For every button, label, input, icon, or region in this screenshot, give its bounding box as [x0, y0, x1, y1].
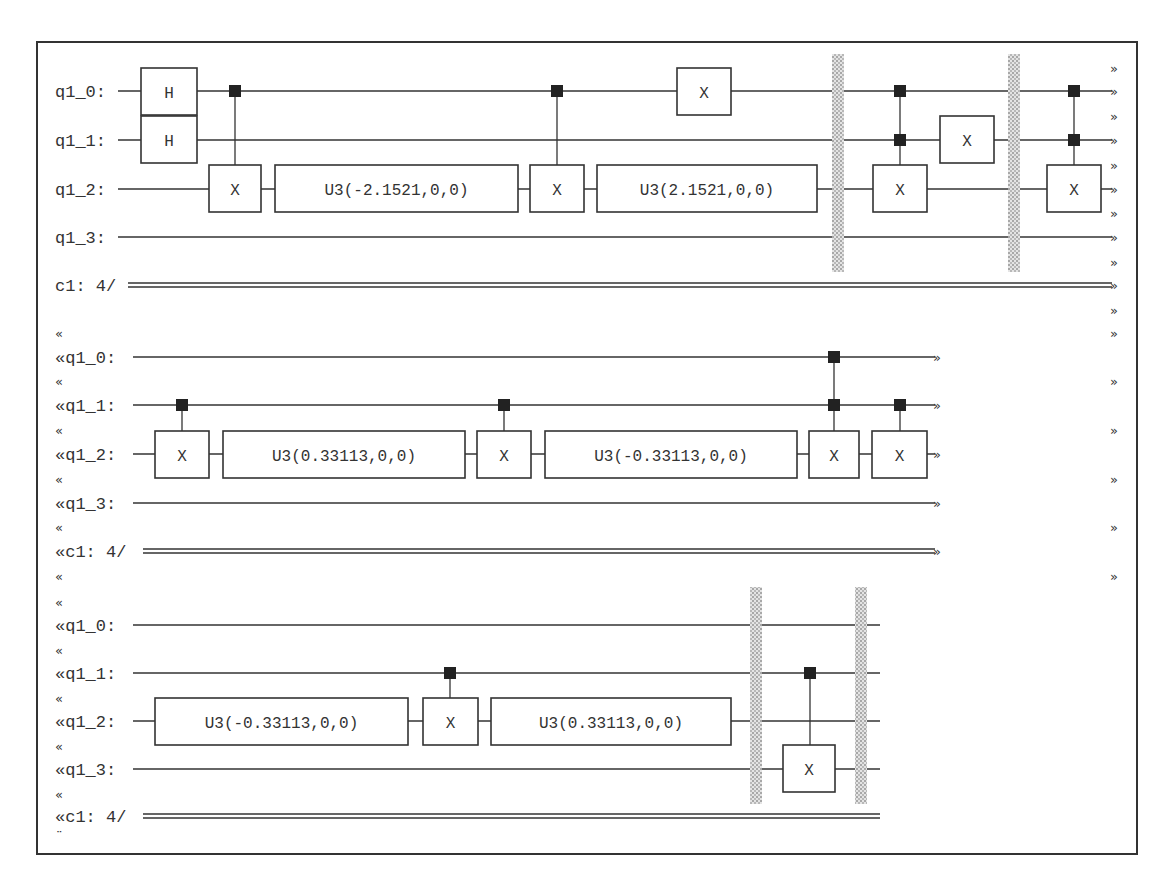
- barrier: [832, 54, 844, 272]
- wire-label: «q1_1:: [55, 665, 116, 684]
- wire-label: «c1: 4/: [55, 808, 126, 827]
- control-dot: [1068, 134, 1080, 146]
- x-gate: X: [477, 431, 531, 478]
- wire-continuation-arrow: »: [1110, 230, 1118, 245]
- u3-gate: U3(-0.33113,0,0): [155, 698, 408, 745]
- control-dot: [894, 85, 906, 97]
- gate-label: X: [804, 762, 814, 780]
- gate-label: X: [499, 448, 509, 466]
- continuation-right-marker: »: [1110, 326, 1118, 341]
- gate-label: X: [230, 182, 240, 200]
- gate-label: X: [1069, 182, 1079, 200]
- u3-gate: U3(0.33113,0,0): [223, 431, 465, 478]
- continuation-right-marker: »: [1110, 109, 1118, 124]
- end-marker: ¨: [56, 828, 63, 843]
- gate-label: U3(0.33113,0,0): [272, 448, 416, 466]
- continuation-left-marker: «: [55, 691, 63, 706]
- control-dot: [828, 351, 840, 363]
- control-dot: [894, 399, 906, 411]
- hadamard-gate: H: [141, 116, 197, 163]
- gate-label: X: [552, 182, 562, 200]
- wire-continuation-arrow: »: [1110, 182, 1118, 197]
- hadamard-gate: H: [141, 68, 197, 115]
- x-gate: X: [209, 165, 261, 212]
- circuit-block-2: »«»«»«»«»«»««q1_0:«q1_1:«q1_2:«q1_3:«c1:…: [55, 326, 1118, 584]
- x-gate: X: [783, 745, 835, 792]
- control-dot: [444, 667, 456, 679]
- gate-label: X: [895, 448, 905, 466]
- gate-label: U3(-0.33113,0,0): [205, 715, 359, 733]
- continuation-right-marker: »: [1110, 374, 1118, 389]
- wire-label: «q1_3:: [55, 495, 116, 514]
- wire-label: «q1_3:: [55, 761, 116, 780]
- circuit-block-1: »»»»»»q1_0:q1_1:q1_2:q1_3:c1: 4/HHXU3(-2…: [55, 54, 1118, 318]
- control-dot: [828, 399, 840, 411]
- continuation-left-marker: «: [55, 326, 63, 341]
- continuation-left-marker: «: [55, 595, 63, 610]
- control-dot: [1068, 85, 1080, 97]
- wire-label: q1_3:: [55, 229, 106, 248]
- gate-label: X: [895, 182, 905, 200]
- control-dot: [894, 134, 906, 146]
- continuation-left-marker: «: [55, 472, 63, 487]
- wire-continuation-arrow: »: [933, 398, 941, 413]
- circuit-block-3: «««««¨«q1_0:«q1_1:«q1_2:«q1_3:«c1: 4/U3(…: [55, 587, 880, 843]
- x-gate: X: [872, 431, 927, 478]
- continuation-right-marker: »: [1110, 158, 1118, 173]
- quantum-circuit-diagram: »»»»»»q1_0:q1_1:q1_2:q1_3:c1: 4/HHXU3(-2…: [0, 0, 1166, 883]
- gate-label: U3(2.1521,0,0): [640, 182, 774, 200]
- control-dot: [176, 399, 188, 411]
- gate-label: H: [164, 85, 174, 103]
- x-gate: X: [873, 165, 927, 212]
- continuation-left-marker: «: [55, 423, 63, 438]
- continuation-right-marker: »: [1110, 255, 1118, 270]
- x-gate: X: [1047, 165, 1101, 212]
- wire-continuation-arrow: »: [933, 544, 941, 559]
- wire-label: «c1: 4/: [55, 543, 126, 562]
- gate-label: X: [829, 448, 839, 466]
- wire-label: «q1_1:: [55, 397, 116, 416]
- continuation-left-marker: «: [55, 520, 63, 535]
- wire-label: q1_0:: [55, 83, 106, 102]
- wire-label: c1: 4/: [55, 277, 116, 296]
- continuation-right-marker: »: [1110, 303, 1118, 318]
- continuation-right-marker: »: [1110, 61, 1118, 76]
- wire-continuation-arrow: »: [933, 447, 941, 462]
- wire-continuation-arrow: »: [1110, 278, 1118, 293]
- gate-label: X: [699, 85, 709, 103]
- continuation-right-marker: »: [1110, 206, 1118, 221]
- continuation-right-marker: »: [1110, 423, 1118, 438]
- continuation-left-marker: «: [55, 787, 63, 802]
- barrier: [855, 587, 867, 804]
- u3-gate: U3(0.33113,0,0): [491, 698, 731, 745]
- wire-label: q1_2:: [55, 181, 106, 200]
- barrier: [1008, 54, 1020, 272]
- gate-label: X: [446, 715, 456, 733]
- x-gate: X: [940, 116, 994, 163]
- wire-label: «q1_0:: [55, 617, 116, 636]
- continuation-left-marker: «: [55, 569, 63, 584]
- control-dot: [804, 667, 816, 679]
- gate-label: H: [164, 133, 174, 151]
- u3-gate: U3(2.1521,0,0): [597, 165, 817, 212]
- u3-gate: U3(-2.1521,0,0): [275, 165, 518, 212]
- u3-gate: U3(-0.33113,0,0): [545, 431, 797, 478]
- wire-label: «q1_2:: [55, 713, 116, 732]
- continuation-left-marker: «: [55, 739, 63, 754]
- x-gate: X: [423, 698, 478, 745]
- wire-label: «q1_0:: [55, 349, 116, 368]
- control-dot: [229, 85, 241, 97]
- gate-label: X: [962, 133, 972, 151]
- wire-continuation-arrow: »: [933, 350, 941, 365]
- gate-label: U3(-2.1521,0,0): [324, 182, 468, 200]
- continuation-right-marker: »: [1110, 520, 1118, 535]
- control-dot: [551, 85, 563, 97]
- x-gate: X: [677, 68, 731, 115]
- wire-continuation-arrow: »: [1110, 84, 1118, 99]
- x-gate: X: [809, 431, 859, 478]
- continuation-left-marker: «: [55, 643, 63, 658]
- barrier: [750, 587, 762, 804]
- control-dot: [498, 399, 510, 411]
- gate-label: U3(0.33113,0,0): [539, 715, 683, 733]
- wire-label: q1_1:: [55, 132, 106, 151]
